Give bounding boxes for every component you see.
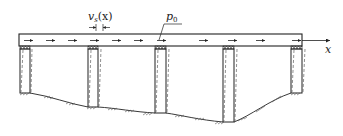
load-leader-line	[159, 24, 182, 40]
deformed-shape	[156, 49, 169, 112]
pier-2	[88, 46, 101, 107]
load-subscript: 0	[173, 16, 177, 24]
load-label: p0	[159, 10, 182, 40]
pier-4	[223, 46, 237, 122]
pier-3	[155, 46, 169, 113]
displacement-label: vs(x)	[88, 10, 113, 31]
dimension-ticks	[89, 24, 110, 31]
svg-text:p0: p0	[166, 10, 178, 24]
x-axis-label: x	[325, 43, 332, 56]
deformed-shape	[224, 49, 237, 121]
deformed-shape	[292, 49, 305, 92]
pier-1	[20, 46, 32, 93]
piers	[20, 46, 305, 122]
svg-text:vs(x): vs(x)	[88, 10, 113, 24]
bridge-pier-diagram: x vs(x) p0	[0, 0, 343, 136]
load-symbol: p	[166, 10, 173, 23]
ground-hatching	[20, 93, 300, 124]
ground-profile	[20, 93, 300, 124]
x-axis: x	[302, 41, 332, 57]
pier-5	[291, 46, 305, 93]
deformed-shape	[89, 49, 101, 106]
displacement-argument: (x)	[98, 10, 113, 23]
